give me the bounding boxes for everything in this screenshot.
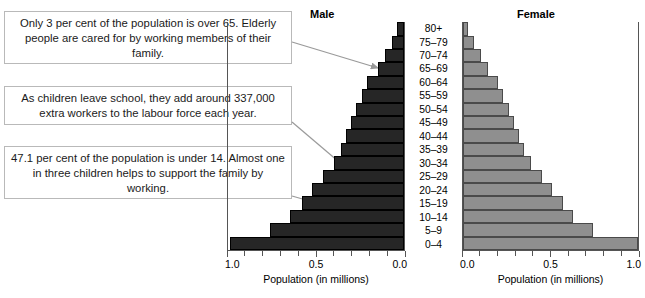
age-label: 55–59 — [406, 89, 461, 102]
bar-male-20_24 — [312, 183, 404, 196]
axis-tick — [621, 251, 622, 256]
bar-row — [463, 183, 638, 196]
x-axis-ticklabels-male: 1.00.50.0 — [227, 257, 405, 271]
bar-row — [463, 76, 638, 89]
bar-female-50_54 — [463, 103, 509, 116]
bar-female-20_24 — [463, 183, 552, 196]
bar-row — [228, 237, 404, 250]
bar-female-40_44 — [463, 129, 519, 142]
bar-male-5_9 — [270, 223, 404, 236]
axis-tick — [298, 251, 299, 256]
bar-row — [228, 156, 404, 169]
chart-panel-male — [227, 8, 405, 251]
age-group-labels: 80+75–7970–7465–6960–6455–5950–5445–4940… — [406, 22, 461, 251]
axis-tick — [333, 251, 334, 256]
axis-tick — [532, 251, 533, 256]
bar-male-10_14 — [290, 210, 404, 223]
age-label: 65–69 — [406, 62, 461, 75]
bar-female-15_19 — [463, 196, 563, 209]
bar-row — [463, 156, 638, 169]
age-label: 10–14 — [406, 211, 461, 224]
bar-row — [463, 36, 638, 49]
axis-tick — [351, 251, 352, 256]
bar-female-10_14 — [463, 210, 573, 223]
age-label: 75–79 — [406, 36, 461, 49]
bar-row — [463, 223, 638, 236]
bar-male-0_4 — [230, 237, 404, 250]
axis-tick — [515, 251, 516, 256]
bar-row — [228, 183, 404, 196]
age-label: 20–24 — [406, 184, 461, 197]
bar-female-65_69 — [463, 62, 488, 75]
age-label: 0–4 — [406, 238, 461, 251]
axis-tick — [497, 251, 498, 256]
axis-tick-label: 0.5 — [543, 258, 558, 270]
axis-tick-label: 1.0 — [626, 258, 641, 270]
bar-female-55_59 — [463, 89, 503, 102]
bar-row — [463, 196, 638, 209]
bar-female-45_49 — [463, 116, 514, 129]
age-label: 70–74 — [406, 49, 461, 62]
bar-male-15_19 — [302, 196, 404, 209]
bar-male-55_59 — [362, 89, 404, 102]
axis-tick — [603, 251, 604, 256]
population-pyramid-figure: Only 3 per cent of the population is ove… — [0, 0, 645, 298]
axis-tick — [568, 251, 569, 256]
axis-tick — [244, 251, 245, 256]
bar-female-60_64 — [463, 76, 498, 89]
bar-male-50_54 — [356, 103, 404, 116]
age-label: 25–29 — [406, 170, 461, 183]
bar-row — [228, 89, 404, 102]
age-label: 15–19 — [406, 197, 461, 210]
x-axis-ticklabels-female: 0.00.51.0 — [462, 257, 639, 271]
bar-row — [463, 103, 638, 116]
bar-male-35_39 — [341, 143, 404, 156]
bar-female-80+ — [463, 22, 468, 35]
bar-row — [228, 36, 404, 49]
bar-row — [463, 237, 638, 250]
bar-male-60_64 — [367, 76, 404, 89]
chart-panel-female — [462, 8, 639, 251]
axis-tick — [387, 251, 388, 256]
bar-row — [463, 116, 638, 129]
bar-row — [228, 196, 404, 209]
age-label: 5–9 — [406, 224, 461, 237]
bar-row — [463, 170, 638, 183]
age-label: 80+ — [406, 22, 461, 35]
axis-tick-label: 0.0 — [392, 258, 407, 270]
bar-female-0_4 — [463, 237, 638, 250]
axis-tick — [369, 251, 370, 256]
bar-row — [228, 129, 404, 142]
bar-male-70_74 — [385, 49, 404, 62]
bar-row — [228, 170, 404, 183]
x-axis-title-female: Population (in millions) — [462, 273, 639, 285]
bar-row — [228, 49, 404, 62]
axis-tick-label: 0.5 — [309, 258, 324, 270]
bar-row — [228, 116, 404, 129]
bar-male-65_69 — [378, 62, 404, 75]
bar-male-75_79 — [392, 36, 404, 49]
age-label: 50–54 — [406, 103, 461, 116]
age-label: 30–34 — [406, 157, 461, 170]
bar-row — [463, 89, 638, 102]
age-label: 40–44 — [406, 130, 461, 143]
x-axis-male: 1.00.50.0 Population (in millions) — [227, 251, 405, 297]
bar-row — [463, 49, 638, 62]
axis-tick — [262, 251, 263, 256]
bar-row — [228, 22, 404, 35]
plot-area-female — [462, 22, 639, 251]
bar-row — [228, 210, 404, 223]
bar-male-25_29 — [323, 170, 404, 183]
bar-male-40_44 — [346, 129, 404, 142]
bar-row — [463, 143, 638, 156]
age-label: 60–64 — [406, 76, 461, 89]
bar-row — [228, 223, 404, 236]
bar-row — [463, 22, 638, 35]
bar-row — [228, 143, 404, 156]
age-label: 35–39 — [406, 143, 461, 156]
bar-male-80+ — [397, 22, 404, 35]
x-axis-female: 0.00.51.0 Population (in millions) — [462, 251, 639, 297]
bar-female-25_29 — [463, 170, 542, 183]
bar-row — [463, 62, 638, 75]
bar-female-70_74 — [463, 49, 481, 62]
